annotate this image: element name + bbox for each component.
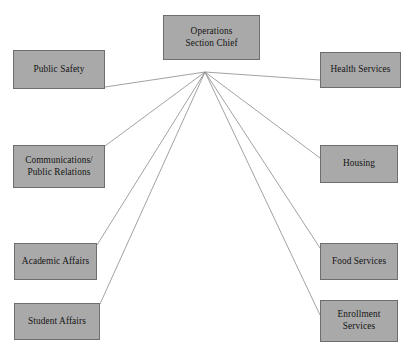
node-student-affairs[interactable]: Student Affairs xyxy=(14,303,100,340)
node-label: Student Affairs xyxy=(26,316,88,328)
node-public-safety[interactable]: Public Safety xyxy=(13,50,105,89)
node-label: Communications/ Public Relations xyxy=(23,155,95,179)
connector-communications xyxy=(105,72,205,146)
node-label: Enrollment Services xyxy=(336,309,383,333)
node-enrollment-services[interactable]: Enrollment Services xyxy=(320,300,398,342)
node-label: Housing xyxy=(341,158,377,170)
connector-enrollment xyxy=(205,72,320,315)
node-label: Academic Affairs xyxy=(20,256,91,268)
connector-housing xyxy=(205,72,320,158)
node-food-services[interactable]: Food Services xyxy=(320,243,398,280)
org-chart-diagram: Operations Section Chief Public Safety C… xyxy=(0,0,416,357)
node-label: Health Services xyxy=(328,64,392,76)
connector-student xyxy=(100,72,205,304)
node-operations-section-chief[interactable]: Operations Section Chief xyxy=(163,15,260,60)
connector-health xyxy=(205,72,320,80)
node-communications-public-relations[interactable]: Communications/ Public Relations xyxy=(13,145,105,188)
node-housing[interactable]: Housing xyxy=(320,145,398,183)
connector-public-safety xyxy=(105,72,205,87)
node-label: Food Services xyxy=(330,256,388,268)
node-health-services[interactable]: Health Services xyxy=(320,52,401,88)
connector-food xyxy=(205,72,320,248)
node-label: Public Safety xyxy=(31,64,86,76)
node-academic-affairs[interactable]: Academic Affairs xyxy=(14,243,97,280)
connector-academic xyxy=(97,72,205,245)
node-label: Operations Section Chief xyxy=(183,26,239,50)
